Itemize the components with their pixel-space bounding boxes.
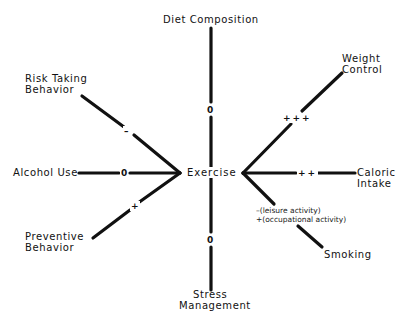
- node-preventive-behavior-line2: Behavior: [25, 242, 74, 253]
- node-weight-control-line1: Weight: [342, 53, 380, 64]
- sign-diet: 0: [206, 105, 214, 115]
- node-alcohol-use: Alcohol Use: [13, 167, 78, 178]
- node-stress-line1: Stress: [193, 289, 227, 300]
- sign-alcohol: 0: [120, 168, 128, 178]
- node-caloric-intake-line2: Intake: [357, 178, 392, 189]
- sign-weight: +++: [282, 113, 313, 123]
- sign-stress: 0: [206, 235, 214, 245]
- node-caloric-intake-line1: Caloric: [357, 167, 396, 178]
- node-preventive-behavior-line1: Preventive: [25, 231, 84, 242]
- sign-caloric: ++: [297, 168, 318, 178]
- connector-lines: [0, 0, 406, 321]
- node-weight-control-line2: Control: [342, 64, 382, 75]
- node-stress-line2: Management: [179, 300, 251, 311]
- note-smoking-occupational: +(occupational activity): [256, 215, 346, 224]
- node-risk-taking-line1: Risk Taking: [25, 73, 87, 84]
- node-smoking: Smoking: [324, 249, 372, 260]
- node-risk-taking-line2: Behavior: [25, 84, 74, 95]
- node-exercise-center: Exercise: [187, 167, 237, 178]
- note-smoking-leisure: –(leisure activity): [256, 206, 321, 215]
- node-diet-composition: Diet Composition: [163, 14, 259, 25]
- sign-risk: –: [123, 126, 130, 136]
- sign-preventive: +: [130, 201, 140, 211]
